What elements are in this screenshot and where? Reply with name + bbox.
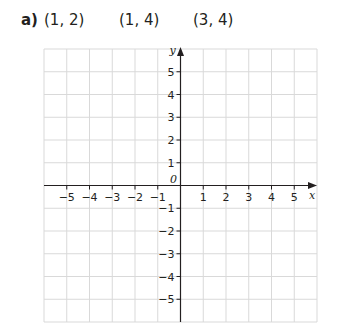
y-tick-label: −1 — [158, 202, 174, 215]
y-tick-label: 2 — [168, 134, 175, 147]
axes — [44, 47, 317, 322]
x-tick-label: 1 — [200, 191, 207, 204]
y-tick-label: 4 — [168, 89, 175, 102]
y-tick-label: −2 — [158, 225, 174, 238]
coordinate-grid: −5−4−3−2−11234554321−1−2−3−4−50xy — [0, 0, 352, 333]
x-tick-label: −3 — [104, 191, 120, 204]
x-tick-label: −4 — [81, 191, 97, 204]
x-tick-label: 3 — [245, 191, 252, 204]
y-tick-label: 1 — [168, 157, 175, 170]
origin-label: 0 — [170, 173, 177, 186]
x-tick-label: −5 — [59, 191, 75, 204]
x-tick-label: 5 — [291, 191, 298, 204]
y-tick-label: −4 — [158, 271, 174, 284]
y-axis-arrow-icon — [177, 47, 184, 56]
y-tick-label: −5 — [158, 293, 174, 306]
x-tick-label: 4 — [268, 191, 275, 204]
x-axis-label: x — [309, 189, 316, 202]
y-tick-label: 3 — [168, 111, 175, 124]
x-tick-label: 2 — [223, 191, 230, 204]
x-tick-label: −2 — [127, 191, 143, 204]
tick-labels: −5−4−3−2−11234554321−1−2−3−4−50xy — [59, 44, 316, 306]
y-axis-label: y — [168, 44, 176, 57]
y-tick-label: 5 — [168, 66, 175, 79]
y-tick-label: −3 — [158, 248, 174, 261]
